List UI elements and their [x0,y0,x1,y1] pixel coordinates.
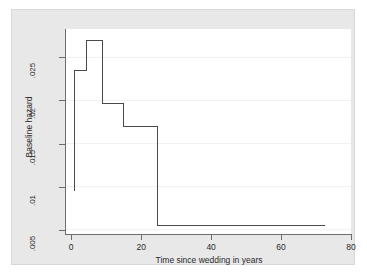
y-tick-3 [59,100,65,101]
y-tick-label-0: .005 [28,228,37,258]
x-tick-4 [351,235,352,240]
plot-svg [66,29,351,234]
x-axis-title: Time since wedding in years [66,255,352,265]
x-tick-label-2: 40 [198,242,224,252]
x-tick-0 [71,235,72,240]
x-tick-3 [281,235,282,240]
x-tick-label-3: 60 [268,242,294,252]
gridlines [66,57,351,229]
plot-region [66,29,351,234]
x-tick-label-0: 0 [58,242,84,252]
graph-region: .005.01.015.02.025 020406080 Baseline ha… [11,9,355,265]
x-tick-label-4: 80 [338,242,364,252]
y-axis-line [65,29,66,235]
x-tick-label-1: 20 [128,242,154,252]
y-tick-1 [59,187,65,188]
y-tick-2 [59,144,65,145]
series-line-0 [75,40,325,225]
x-axis-line [65,234,352,235]
x-tick-2 [211,235,212,240]
y-tick-0 [59,230,65,231]
series-layer [75,40,325,225]
y-axis-title: Baseline hazard [24,82,34,172]
figure-canvas: .005.01.015.02.025 020406080 Baseline ha… [0,0,367,274]
y-tick-label-1: .01 [28,185,37,215]
y-tick-4 [59,57,65,58]
x-tick-1 [141,235,142,240]
